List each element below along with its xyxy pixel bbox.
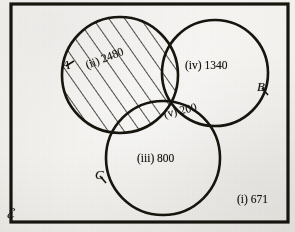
region-label-iii: (iii) 800 [137,153,174,165]
shaded-region-set-a [55,10,190,145]
set-label-a: A [62,58,70,71]
universal-set-label: ℰ [6,207,14,220]
region-label-i: (i) 671 [237,194,268,206]
venn-diagram-figure: A B C ℰ (ii) 2480 (iv) 1340 (v) 200 (iii… [0,0,295,232]
set-label-b: B [257,80,265,93]
region-label-iv: (iv) 1340 [185,60,227,72]
set-label-c: C [95,168,104,181]
